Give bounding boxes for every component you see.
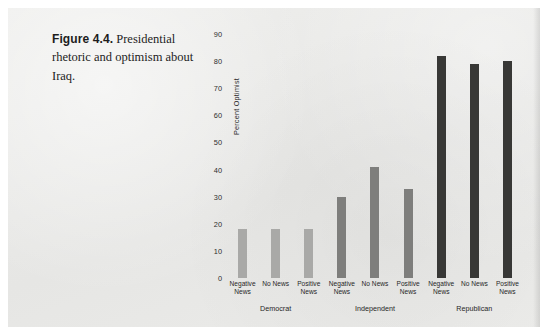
bar-republican-no-news — [470, 64, 479, 278]
bar-republican-negative-news — [437, 56, 446, 278]
category-label: No News — [259, 280, 292, 297]
y-axis-tick-10: 10 — [214, 246, 222, 255]
y-axis-tick-90: 90 — [214, 30, 222, 39]
category-label: No News — [458, 280, 491, 297]
bar-republican-positive-news — [503, 61, 512, 278]
category-label: Negative News — [226, 280, 259, 297]
figure-number: Figure 4.4. — [52, 32, 113, 46]
group-label-democrat: Democrat — [226, 304, 325, 313]
scanned-book-page: Figure 4.4. Presidential rhetoric and op… — [8, 8, 540, 327]
bar-slot — [259, 34, 292, 278]
figure-caption: Figure 4.4. Presidential rhetoric and op… — [52, 30, 202, 85]
bars-container — [226, 34, 524, 278]
bar-slot — [458, 34, 491, 278]
bar-slot — [491, 34, 524, 278]
bar-independent-negative-news — [337, 197, 346, 278]
category-label: Negative News — [425, 280, 458, 297]
y-axis-tick-60: 60 — [214, 111, 222, 120]
bar-slot — [292, 34, 325, 278]
bar-chart: Percent Optimist 0102030405060708090 Neg… — [194, 34, 524, 314]
y-axis-tick-30: 30 — [214, 192, 222, 201]
y-axis-tick-50: 50 — [214, 138, 222, 147]
bar-slot — [425, 34, 458, 278]
bar-independent-positive-news — [404, 189, 413, 278]
bar-independent-no-news — [370, 167, 379, 278]
bar-democrat-no-news — [271, 229, 280, 278]
bar-slot — [226, 34, 259, 278]
y-axis-tick-0: 0 — [218, 274, 222, 283]
group-label-republican: Republican — [425, 304, 524, 313]
bar-democrat-positive-news — [304, 229, 313, 278]
category-tick-labels: Negative NewsNo NewsPositive NewsNegativ… — [226, 280, 524, 297]
category-label: No News — [358, 280, 391, 297]
y-axis-tick-70: 70 — [214, 84, 222, 93]
category-label: Positive News — [491, 280, 524, 297]
group-labels: DemocratIndependentRepublican — [226, 304, 524, 313]
group-label-independent: Independent — [325, 304, 424, 313]
y-axis-tick-20: 20 — [214, 219, 222, 228]
category-label: Positive News — [292, 280, 325, 297]
y-axis-tick-40: 40 — [214, 165, 222, 174]
bar-democrat-negative-news — [238, 229, 247, 278]
category-label: Positive News — [392, 280, 425, 297]
bar-slot — [392, 34, 425, 278]
category-label: Negative News — [325, 280, 358, 297]
bar-slot — [358, 34, 391, 278]
y-axis-tick-80: 80 — [214, 57, 222, 66]
bar-slot — [325, 34, 358, 278]
